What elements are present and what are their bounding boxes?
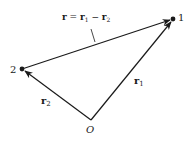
point-2-dot xyxy=(20,67,25,72)
r1-label-sub: 1 xyxy=(139,80,143,88)
relation-label: r = r1 − r2 xyxy=(62,12,111,23)
point-2-label: 2 xyxy=(10,64,16,75)
r1-label: r1 xyxy=(134,75,144,88)
point-1-dot xyxy=(171,17,176,22)
vector-r-line xyxy=(22,20,170,69)
relation-eq: = xyxy=(67,12,80,22)
vector-r1-line xyxy=(91,22,171,120)
r2-label: r2 xyxy=(41,95,51,108)
r2-label-sub: 2 xyxy=(46,100,50,108)
vector-r2-line xyxy=(25,71,91,120)
relation-minus: − xyxy=(89,12,102,22)
relation-r2-sub: 2 xyxy=(107,16,111,23)
point-1-label: 1 xyxy=(178,12,184,23)
leader-line xyxy=(91,29,95,42)
vector-diagram: 1 2 O r = r1 − r2 r1 r2 xyxy=(0,0,192,141)
origin-label: O xyxy=(86,124,94,135)
